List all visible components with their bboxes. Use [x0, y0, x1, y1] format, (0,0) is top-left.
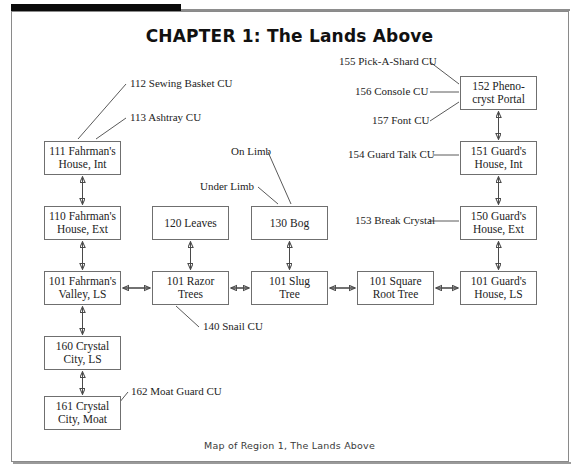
- node-line-2: House, Int: [49, 158, 116, 171]
- node-line-2: House, Int: [471, 158, 526, 171]
- leader-on-limb: [268, 152, 291, 204]
- node-101-guards-house-ls[interactable]: 101 Guard'sHouse, LS: [460, 271, 537, 305]
- annotation-under-limb: Under Limb: [200, 180, 254, 192]
- node-line-1: 111 Fahrman's: [49, 145, 116, 158]
- leader-113-ashtray: [96, 118, 126, 139]
- node-110-fahrmans-house-ext[interactable]: 110 Fahrman'sHouse, Ext: [44, 206, 121, 240]
- node-line-1: 101 Slug: [269, 275, 310, 288]
- node-line-1: 110 Fahrman's: [49, 210, 116, 223]
- node-line-1: 151 Guard's: [471, 145, 526, 158]
- node-line-1: 101 Guard's: [471, 275, 526, 288]
- figure-caption: Map of Region 1, The Lands Above: [0, 440, 579, 451]
- annotation-on-limb: On Limb: [231, 145, 271, 157]
- node-101-fahrmans-valley-ls[interactable]: 101 Fahrman'sValley, LS: [44, 271, 121, 305]
- leader-112-sewing-basket: [78, 84, 126, 139]
- node-line-1: 161 Crystal: [56, 400, 109, 413]
- node-line-2: House, LS: [471, 288, 526, 301]
- node-101-slug-tree[interactable]: 101 SlugTree: [251, 271, 328, 305]
- node-151-guards-house-int[interactable]: 151 Guard'sHouse, Int: [460, 141, 537, 175]
- node-line-1: 120 Leaves: [164, 217, 217, 230]
- node-line-1: 101 Square: [369, 275, 421, 288]
- node-line-2: City, Moat: [56, 413, 109, 426]
- node-160-crystal-city-ls[interactable]: 160 CrystalCity, LS: [44, 336, 121, 370]
- node-line-2: Trees: [167, 288, 215, 301]
- node-120-leaves[interactable]: 120 Leaves: [152, 206, 229, 240]
- node-line-2: House, Ext: [49, 223, 116, 236]
- node-line-2: cryst Portal: [472, 93, 525, 106]
- leader-157-font: [430, 102, 459, 121]
- annotation-153-break-crystal: 153 Break Crystal: [355, 214, 435, 226]
- node-line-1: 130 Bog: [270, 217, 309, 230]
- node-161-crystal-city-moat[interactable]: 161 CrystalCity, Moat: [44, 396, 121, 430]
- page-root: CHAPTER 1: The Lands Above: [0, 0, 579, 476]
- node-line-1: 160 Crystal: [56, 340, 109, 353]
- node-line-1: 152 Pheno-: [472, 80, 525, 93]
- node-line-1: 101 Razor: [167, 275, 215, 288]
- annotation-112-sewing-basket-cu: 112 Sewing Basket CU: [130, 77, 233, 89]
- leader-140-snail: [176, 306, 199, 327]
- node-line-2: City, LS: [56, 353, 109, 366]
- node-line-2: Tree: [269, 288, 310, 301]
- node-130-bog[interactable]: 130 Bog: [251, 206, 328, 240]
- node-line-2: Valley, LS: [49, 288, 117, 301]
- annotation-156-console-cu: 156 Console CU: [355, 85, 428, 97]
- node-101-razor-trees[interactable]: 101 RazorTrees: [152, 271, 229, 305]
- annotation-162-moat-guard-cu: 162 Moat Guard CU: [131, 385, 222, 397]
- annotation-154-guard-talk-cu: 154 Guard Talk CU: [348, 148, 435, 160]
- node-line-1: 150 Guard's: [471, 210, 526, 223]
- node-line-1: 101 Fahrman's: [49, 275, 117, 288]
- node-line-2: Root Tree: [369, 288, 421, 301]
- annotation-140-snail-cu: 140 Snail CU: [203, 320, 263, 332]
- node-line-2: House, Ext: [471, 223, 526, 236]
- node-152-phenocryst-portal[interactable]: 152 Pheno-cryst Portal: [460, 76, 537, 110]
- node-150-guards-house-ext[interactable]: 150 Guard'sHouse, Ext: [460, 206, 537, 240]
- node-111-fahrmans-house-int[interactable]: 111 Fahrman'sHouse, Int: [44, 141, 121, 175]
- node-101-square-root-tree[interactable]: 101 SquareRoot Tree: [357, 271, 434, 305]
- annotation-155-pick-a-shard-cu: 155 Pick-A-Shard CU: [339, 55, 437, 67]
- annotation-157-font-cu: 157 Font CU: [372, 114, 429, 126]
- annotation-113-ashtray-cu: 113 Ashtray CU: [130, 111, 201, 123]
- leader-under-limb: [258, 187, 278, 204]
